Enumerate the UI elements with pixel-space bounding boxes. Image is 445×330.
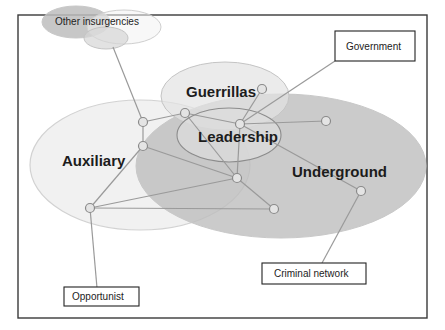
opportunist-label: Opportunist [72,291,124,302]
criminal-network-box: Criminal network [262,263,366,284]
node-n4 [236,120,245,129]
auxiliary-label: Auxiliary [62,152,126,169]
node-n8 [270,205,279,214]
node-n3 [181,109,190,118]
criminal-network-label: Criminal network [274,268,349,279]
leadership-label: Leadership [198,128,278,145]
underground-label: Underground [292,163,387,180]
node-n5 [258,85,267,94]
opportunist-box: Opportunist [64,287,139,306]
node-n6 [322,117,331,126]
insurgency-network-diagram: Other insurgencies Guerrillas Leadership… [0,0,445,330]
node-n1 [139,118,148,127]
node-n2 [139,142,148,151]
other-insurgency-ellipse-small [84,27,128,49]
other-insurgencies-label: Other insurgencies [55,16,139,27]
node-n9 [86,204,95,213]
guerrillas-label: Guerrillas [186,83,256,100]
government-box: Government [335,31,415,61]
government-label: Government [346,41,401,52]
node-n10 [357,187,366,196]
node-n7 [233,174,242,183]
